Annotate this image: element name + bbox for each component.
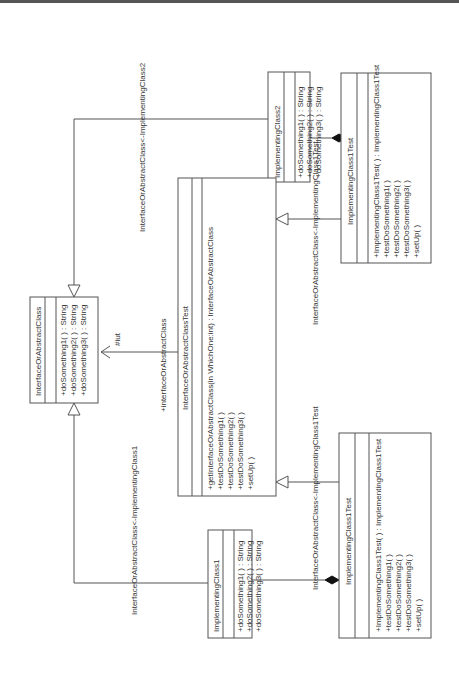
composition-diamond-icon bbox=[325, 576, 339, 584]
method: +doSomething2( ) : String bbox=[69, 305, 78, 396]
method: +doSomething1( ) : String bbox=[59, 305, 68, 396]
generalization-arrowhead-icon bbox=[276, 476, 288, 488]
class-name: ImplementingClass1Test bbox=[346, 137, 355, 225]
method: +testDoSomething1( ) bbox=[216, 412, 225, 490]
realization-arrowhead-icon bbox=[68, 285, 80, 297]
association-role-label: #iut bbox=[113, 332, 122, 346]
method: +testDoSomething1( ) bbox=[382, 180, 391, 258]
class-name: ImplementingClass2 bbox=[273, 105, 282, 178]
class-implementing-class1[interactable]: ImplementingClass1 +doSomething1( ) : St… bbox=[208, 530, 263, 638]
method: +doSomething3( ) : String bbox=[79, 305, 88, 396]
method: +testDoSomething3( ) bbox=[236, 412, 245, 490]
class-name: ImplementingClass1Test bbox=[344, 497, 353, 585]
method: +ImplementingClass1Test( ) : Implementin… bbox=[372, 64, 381, 258]
method: +setUp( ) bbox=[246, 457, 255, 490]
generalization-arrowhead-icon bbox=[276, 213, 288, 225]
class-interface-or-abstract-class-test[interactable]: InterfaceOrAbstractClassTest +getInterfa… bbox=[178, 178, 276, 496]
class-name: InterfaceOrAbstractClass bbox=[34, 307, 43, 396]
class-implementing-class1-test-top[interactable]: ImplementingClass1Test +ImplementingClas… bbox=[341, 64, 431, 263]
class-name: ImplementingClass1 bbox=[212, 559, 221, 632]
method: +setUp( ) bbox=[412, 225, 421, 258]
realization-arrowhead-icon bbox=[68, 403, 80, 415]
method: +setUp( ) bbox=[414, 599, 423, 632]
method: +doSomething3( ) : String bbox=[254, 541, 263, 632]
class-implementing-class1-test-bottom[interactable]: ImplementingClass1Test +ImplementingClas… bbox=[339, 433, 431, 638]
method: +testDoSomething2( ) bbox=[394, 554, 403, 632]
method: +testDoSomething2( ) bbox=[392, 180, 401, 258]
relation-label: InterfaceOrAbstractClass<-ImplementingCl… bbox=[138, 62, 147, 232]
method: +testDoSomething3( ) bbox=[404, 554, 413, 632]
method: +doSomething2( ) : String bbox=[245, 541, 254, 632]
relation-impl1testB-to-ifacetest: InterfaceOrAbstractClass<-ImplementingCl… bbox=[276, 405, 339, 590]
method: +testDoSomething1( ) bbox=[384, 554, 393, 632]
method: +testDoSomething2( ) bbox=[226, 412, 235, 490]
method: +doSomething1( ) : String bbox=[296, 87, 305, 178]
method: +ImplementingClass1Test( ) : Implementin… bbox=[374, 438, 383, 632]
uml-class-diagram: InterfaceOrAbstractClass<-ImplementingCl… bbox=[0, 0, 459, 695]
relation-label: InterfaceOrAbstractClass<-ImplementingCl… bbox=[311, 405, 320, 590]
relation-ifacetest-to-iface: #iut +interfaceOrAbstractClass bbox=[101, 318, 178, 412]
method: +doSomething3( ) : String bbox=[314, 87, 323, 178]
method: +testDoSomething3( ) bbox=[402, 180, 411, 258]
class-implementing-class2[interactable]: ImplementingClass2 +doSomething1( ) : St… bbox=[268, 72, 323, 182]
method: +doSomething2( ) : String bbox=[305, 87, 314, 178]
association-label: +interfaceOrAbstractClass bbox=[159, 318, 168, 412]
relation-impl1-composition bbox=[252, 576, 339, 584]
method: +doSomething1( ) : String bbox=[236, 541, 245, 632]
relation-label: InterfaceOrAbstractClass<-ImplementingCl… bbox=[130, 445, 139, 615]
class-interface-or-abstract-class[interactable]: InterfaceOrAbstractClass +doSomething1( … bbox=[30, 297, 98, 403]
method: +getInterfaceOrAbstractClass(in WhichOne… bbox=[206, 227, 215, 490]
class-name: InterfaceOrAbstractClassTest bbox=[181, 305, 190, 410]
